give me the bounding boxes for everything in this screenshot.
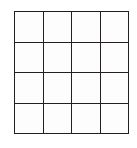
- grid-cell[interactable]: [100, 12, 129, 43]
- grid-cell[interactable]: [15, 42, 44, 73]
- grid-cell[interactable]: [100, 42, 129, 73]
- grid-cell[interactable]: [72, 103, 101, 134]
- grid-cell[interactable]: [43, 103, 72, 134]
- grid-cell[interactable]: [43, 73, 72, 104]
- grid-cell[interactable]: [15, 12, 44, 43]
- grid-table: [14, 11, 129, 134]
- grid-cell[interactable]: [15, 103, 44, 134]
- grid-row: [15, 12, 129, 43]
- grid-body: [15, 12, 129, 134]
- grid-row: [15, 103, 129, 134]
- grid-cell[interactable]: [100, 103, 129, 134]
- grid-diagram: [14, 11, 129, 134]
- page-root: { "figure": { "name": "four-by-four-empt…: [0, 0, 137, 148]
- grid-row: [15, 73, 129, 104]
- grid-cell[interactable]: [100, 73, 129, 104]
- grid-cell[interactable]: [15, 73, 44, 104]
- grid-cell[interactable]: [72, 42, 101, 73]
- grid-cell[interactable]: [72, 12, 101, 43]
- grid-cell[interactable]: [72, 73, 101, 104]
- grid-cell[interactable]: [43, 12, 72, 43]
- grid-row: [15, 42, 129, 73]
- grid-cell[interactable]: [43, 42, 72, 73]
